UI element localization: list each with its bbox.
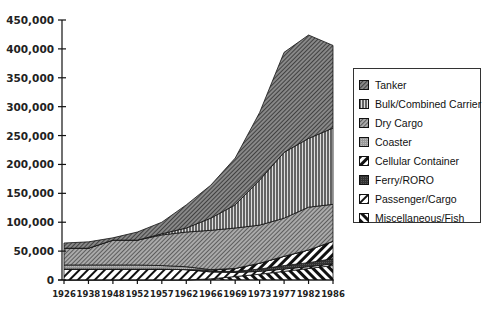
misc-swatch-icon: [359, 213, 369, 223]
x-tick-label: 1962: [174, 289, 198, 299]
area-layers: [64, 35, 333, 280]
bulk-swatch-icon: [359, 99, 369, 109]
legend-item-coaster: Coaster: [359, 136, 412, 148]
x-tick-label: 1973: [248, 289, 272, 299]
x-tick-label: 1977: [272, 289, 296, 299]
x-tick-label: 1948: [101, 289, 125, 299]
y-tick-label: 250,000: [6, 130, 54, 142]
cellular-swatch-icon: [359, 156, 369, 166]
legend-label: Tanker: [375, 79, 407, 91]
y-tick-label: 150,000: [6, 187, 54, 199]
y-tick-label: 450,000: [6, 14, 54, 26]
x-tick-label: 1952: [126, 289, 150, 299]
chart-legend: TankerBulk/Combined CarrierDry CargoCoas…: [353, 68, 481, 223]
x-tick-label: 1966: [199, 289, 223, 299]
dry-swatch-icon: [359, 118, 369, 128]
x-tick-label: 1986: [321, 289, 345, 299]
x-tick-label: 1982: [297, 289, 321, 299]
x-tick-label: 1957: [150, 289, 174, 299]
ferry-swatch-icon: [359, 175, 369, 185]
y-tick-label: 400,000: [6, 43, 54, 55]
y-tick-label: 50,000: [13, 245, 54, 257]
coaster-swatch-icon: [359, 137, 369, 147]
tanker-swatch-icon: [359, 80, 369, 90]
y-tick-label: 100,000: [6, 216, 54, 228]
legend-label: Passenger/Cargo: [375, 193, 457, 205]
legend-item-tanker: Tanker: [359, 79, 407, 91]
legend-label: Cellular Container: [375, 155, 459, 167]
x-tick-label: 1938: [77, 289, 101, 299]
x-tick-label: 1969: [223, 289, 247, 299]
passenger-swatch-icon: [359, 194, 369, 204]
y-tick-label: 300,000: [6, 101, 54, 113]
legend-label: Coaster: [375, 136, 412, 148]
legend-label: Bulk/Combined Carrier: [375, 98, 481, 110]
y-tick-label: 200,000: [6, 158, 54, 170]
legend-item-bulk: Bulk/Combined Carrier: [359, 98, 481, 110]
legend-label: Ferry/RORO: [375, 174, 434, 186]
legend-item-passenger: Passenger/Cargo: [359, 193, 457, 205]
y-tick-label: 0: [47, 274, 54, 286]
y-tick-label: 350,000: [6, 72, 54, 84]
legend-item-dry: Dry Cargo: [359, 117, 423, 129]
legend-label: Dry Cargo: [375, 117, 423, 129]
legend-item-misc: Miscellaneous/Fish: [359, 212, 464, 224]
legend-item-ferry: Ferry/RORO: [359, 174, 434, 186]
legend-label: Miscellaneous/Fish: [375, 212, 464, 224]
legend-item-cellular: Cellular Container: [359, 155, 459, 167]
x-tick-label: 1926: [52, 289, 76, 299]
